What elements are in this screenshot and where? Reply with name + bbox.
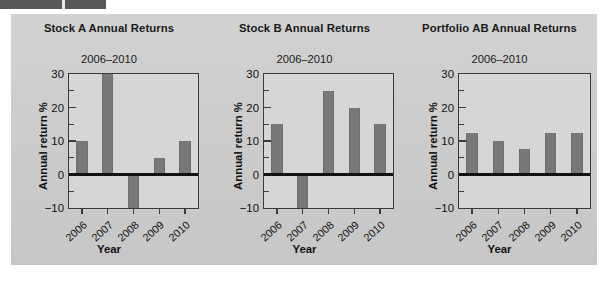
x-axis-tick (184, 208, 185, 214)
bar (374, 124, 386, 176)
x-axis-title: Year (207, 243, 402, 255)
y-axis-tick-label: 10 (246, 135, 259, 147)
y-axis-minor-tick (264, 191, 269, 192)
x-axis-tick (576, 208, 577, 214)
y-axis-tick-label: 30 (441, 68, 454, 80)
page-marker-gap (62, 0, 65, 9)
x-axis-tick (379, 208, 380, 214)
bar (323, 91, 335, 176)
y-axis-title: Annual return % (427, 91, 439, 201)
bar (76, 141, 88, 176)
chart-subtitle: 2006–2010 (207, 53, 402, 65)
y-axis-tick-label: −10 (435, 202, 454, 214)
y-axis-minor-tick (69, 157, 74, 158)
x-axis-tick (328, 208, 329, 214)
bar (297, 175, 309, 209)
y-axis-tick-label: 0 (253, 169, 259, 181)
y-axis-minor-tick (264, 157, 269, 158)
y-axis-tick (264, 140, 271, 141)
y-axis-minor-tick (264, 124, 269, 125)
y-axis-tick-label: 0 (448, 169, 454, 181)
chart-subtitle: 2006–2010 (402, 53, 597, 65)
x-axis-title: Year (11, 243, 207, 255)
y-axis-tick (264, 107, 271, 108)
bar (271, 124, 283, 176)
y-axis-tick-label: 10 (441, 135, 454, 147)
chart-title: Stock B Annual Returns (207, 22, 402, 35)
y-axis-minor-tick (459, 191, 464, 192)
x-axis-tick (107, 208, 108, 214)
y-axis-tick-label: −10 (45, 202, 64, 214)
y-axis-tick-label: 20 (441, 102, 454, 114)
chart-subtitle: 2006–2010 (11, 53, 207, 65)
y-axis-tick-label: 10 (51, 135, 64, 147)
bar (349, 108, 361, 177)
figure-panel: Stock A Annual Returns 2006–2010 Annual … (11, 14, 597, 265)
y-axis-tick (459, 107, 466, 108)
y-axis-minor-tick (69, 191, 74, 192)
chart-portfolio-ab: Portfolio AB Annual Returns 2006–2010 An… (402, 14, 597, 265)
bar (466, 133, 478, 176)
y-axis-tick (69, 140, 76, 141)
y-axis-tick-label: 30 (51, 68, 64, 80)
y-axis-title: Annual return % (232, 91, 244, 201)
x-axis-tick (159, 208, 160, 214)
x-axis-tick (133, 208, 134, 214)
x-axis-tick (524, 208, 525, 214)
plot-area: 3020100−1020062007200820092010 (264, 74, 393, 208)
chart-stock-b: Stock B Annual Returns 2006–2010 Annual … (207, 14, 402, 265)
x-axis-tick (354, 208, 355, 214)
bar (545, 133, 557, 176)
chart-stock-a: Stock A Annual Returns 2006–2010 Annual … (11, 14, 207, 265)
chart-title: Stock A Annual Returns (11, 22, 207, 35)
chart-title: Portfolio AB Annual Returns (402, 22, 597, 35)
y-axis-tick (459, 140, 466, 141)
x-axis-tick (498, 208, 499, 214)
x-axis-tick (302, 208, 303, 214)
x-axis-tick (550, 208, 551, 214)
y-axis-tick-label: 20 (51, 102, 64, 114)
bar (493, 141, 505, 176)
y-axis-tick-label: 0 (58, 169, 64, 181)
y-axis-minor-tick (69, 124, 74, 125)
zero-baseline (69, 173, 198, 176)
y-axis-tick-label: 30 (246, 68, 259, 80)
x-axis-tick (471, 208, 472, 214)
plot-box: 3020100−1020062007200820092010 (458, 73, 591, 209)
y-axis-tick-label: 20 (246, 102, 259, 114)
y-axis-minor-tick (459, 124, 464, 125)
bar (571, 133, 583, 176)
y-axis-minor-tick (459, 90, 464, 91)
plot-area: 3020100−1020062007200820092010 (69, 74, 198, 208)
x-axis-tick (276, 208, 277, 214)
zero-baseline (264, 173, 393, 176)
bar (102, 74, 114, 176)
bar (179, 141, 191, 176)
y-axis-minor-tick (459, 157, 464, 158)
x-axis-title: Year (402, 243, 597, 255)
zero-baseline (459, 173, 590, 176)
y-axis-title: Annual return % (37, 91, 49, 201)
y-axis-minor-tick (264, 90, 269, 91)
y-axis-tick (69, 107, 76, 108)
plot-area: 3020100−1020062007200820092010 (459, 74, 590, 208)
plot-box: 3020100−1020062007200820092010 (68, 73, 199, 209)
y-axis-minor-tick (69, 90, 74, 91)
plot-box: 3020100−1020062007200820092010 (263, 73, 394, 209)
bar (128, 175, 140, 209)
y-axis-tick-label: −10 (240, 202, 259, 214)
x-axis-tick (81, 208, 82, 214)
page-marker-bar (0, 0, 106, 9)
